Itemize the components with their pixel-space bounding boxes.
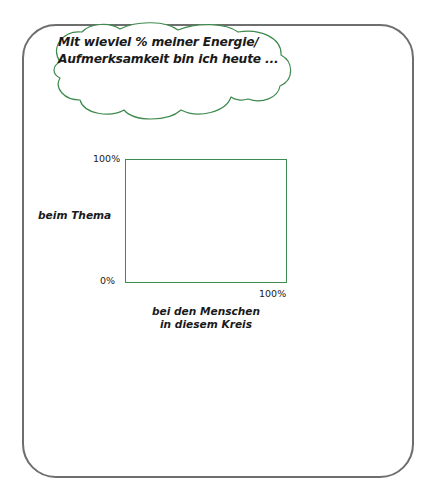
plot-box[interactable]: [125, 159, 287, 283]
thought-bubble-text: Mit wieviel % meiner Energie/ Aufmerksam…: [58, 34, 288, 67]
worksheet-page: Mit wieviel % meiner Energie/ Aufmerksam…: [0, 0, 440, 501]
